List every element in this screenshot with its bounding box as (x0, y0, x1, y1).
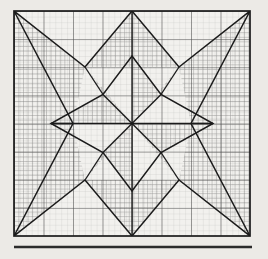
figure-container: Eight-pointed star quilt block on graph … (0, 0, 268, 259)
star-quilt-block-icon: Eight-pointed star quilt block on graph … (0, 0, 268, 259)
